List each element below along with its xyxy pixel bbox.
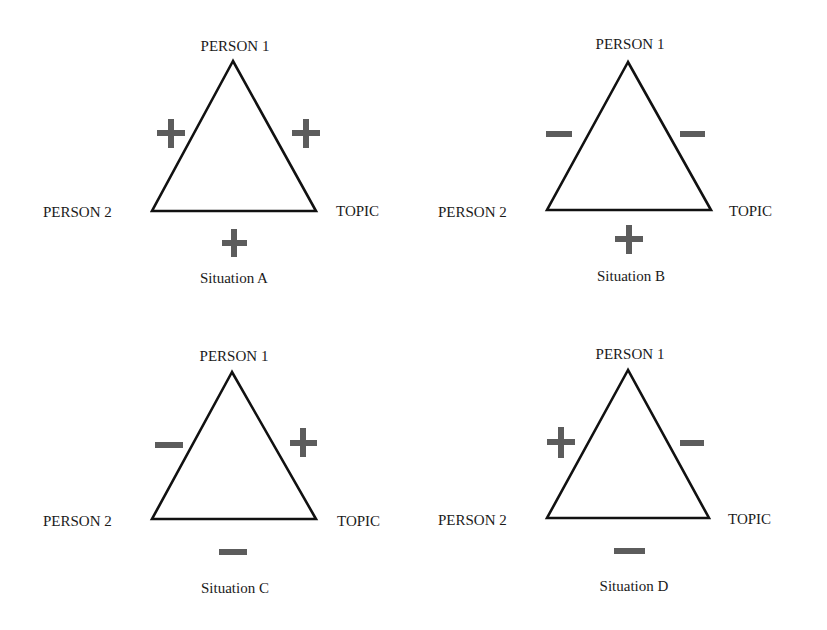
topic-label: TOPIC <box>337 513 380 529</box>
person1-label: PERSON 1 <box>596 346 665 362</box>
minus-icon <box>614 548 645 554</box>
minus-icon <box>680 131 705 137</box>
situation-c: PERSON 1 PERSON 2 TOPIC Situation C <box>43 348 380 596</box>
situation-d: PERSON 1 PERSON 2 TOPIC Situation D <box>438 346 771 594</box>
person2-label: PERSON 2 <box>43 204 112 220</box>
situation-caption: Situation A <box>200 270 268 286</box>
person1-label: PERSON 1 <box>596 36 665 52</box>
plus-icon <box>292 119 320 148</box>
person2-label: PERSON 2 <box>438 204 507 220</box>
plus-icon <box>290 428 317 457</box>
situation-caption: Situation D <box>600 578 669 594</box>
person1-label: PERSON 1 <box>200 348 269 364</box>
situation-b: PERSON 1 PERSON 2 TOPIC Situation B <box>438 36 772 284</box>
person1-label: PERSON 1 <box>201 38 270 54</box>
plus-icon <box>547 427 575 458</box>
topic-label: TOPIC <box>728 511 771 527</box>
person2-label: PERSON 2 <box>438 512 507 528</box>
situation-a: PERSON 1 PERSON 2 TOPIC Situation A <box>43 38 379 286</box>
situation-caption: Situation C <box>201 580 269 596</box>
minus-icon <box>155 442 183 448</box>
situation-caption: Situation B <box>597 268 665 284</box>
minus-icon <box>219 549 247 555</box>
person2-label: PERSON 2 <box>43 513 112 529</box>
plus-icon <box>222 229 247 257</box>
minus-icon <box>546 131 572 137</box>
topic-label: TOPIC <box>336 203 379 219</box>
minus-icon <box>680 440 704 446</box>
plus-icon <box>157 119 185 148</box>
topic-label: TOPIC <box>729 203 772 219</box>
plus-icon <box>615 225 643 254</box>
balance-diagram: PERSON 1 PERSON 2 TOPIC Situation A PERS… <box>0 0 827 630</box>
